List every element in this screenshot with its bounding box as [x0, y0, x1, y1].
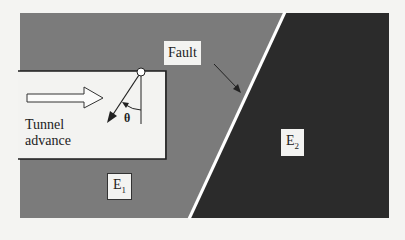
theta-label-text: θ — [124, 111, 130, 125]
fault-label: Fault — [164, 41, 201, 65]
e2-sub: 2 — [295, 141, 300, 151]
e1-main: E — [113, 177, 122, 192]
theta-label: θ — [124, 112, 130, 124]
tunnel-advance-label: Tunnel advance — [25, 117, 71, 149]
tunnel-label-line1: Tunnel — [25, 117, 71, 133]
fault-label-text: Fault — [168, 45, 197, 60]
e2-label: E2 — [281, 129, 304, 156]
e1-label: E1 — [107, 173, 132, 200]
hinge-point-icon — [137, 68, 145, 76]
e2-main: E — [286, 133, 295, 148]
tunnel-label-line2: advance — [25, 133, 71, 149]
e1-sub: 1 — [122, 185, 127, 195]
